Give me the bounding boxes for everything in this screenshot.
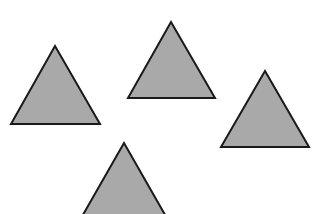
triangle-right	[221, 71, 309, 147]
triangle-bottom	[80, 143, 168, 214]
triangle-top	[128, 22, 215, 98]
triangle-left	[11, 46, 100, 124]
diagram-canvas	[0, 0, 313, 214]
shapes-layer	[0, 0, 313, 214]
